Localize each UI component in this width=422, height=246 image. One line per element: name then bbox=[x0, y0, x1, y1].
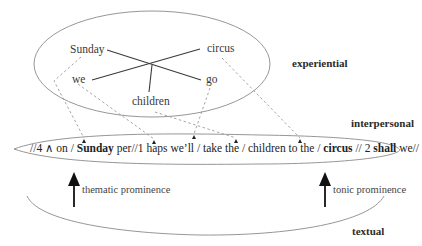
utterance: //4 ∧ on / Sunday per//1 haps we’ll / ta… bbox=[30, 143, 419, 155]
utterance-tonic-circus: circus bbox=[323, 142, 352, 154]
utterance-seg7: we// bbox=[396, 142, 419, 154]
label-interpersonal: interpersonal bbox=[351, 118, 414, 129]
label-tonic-prominence: tonic prominence bbox=[333, 185, 406, 196]
word-go: go bbox=[206, 74, 218, 86]
thematic-prominence-arrow bbox=[68, 172, 80, 207]
utterance-theme-sunday: Sunday bbox=[77, 142, 114, 154]
label-experiential: experiential bbox=[292, 58, 348, 69]
utterance-seg5: // 2 bbox=[353, 142, 374, 154]
textual-arc bbox=[27, 196, 384, 235]
experiential-structure-lines bbox=[92, 49, 201, 92]
utterance-seg1: //4 ∧ on / bbox=[30, 142, 77, 154]
utterance-seg3: per//1 haps we’ll / take the / children … bbox=[114, 142, 324, 154]
tonic-prominence-arrow bbox=[319, 172, 331, 207]
label-thematic-prominence: thematic prominence bbox=[82, 185, 170, 196]
utterance-tonic-shall: shall bbox=[373, 142, 396, 154]
word-circus: circus bbox=[207, 43, 234, 55]
label-textual: textual bbox=[352, 226, 384, 237]
word-children: children bbox=[132, 96, 170, 108]
word-we: we bbox=[72, 74, 85, 86]
word-sunday: Sunday bbox=[70, 44, 105, 56]
mapping-dashed-lines bbox=[54, 57, 300, 139]
